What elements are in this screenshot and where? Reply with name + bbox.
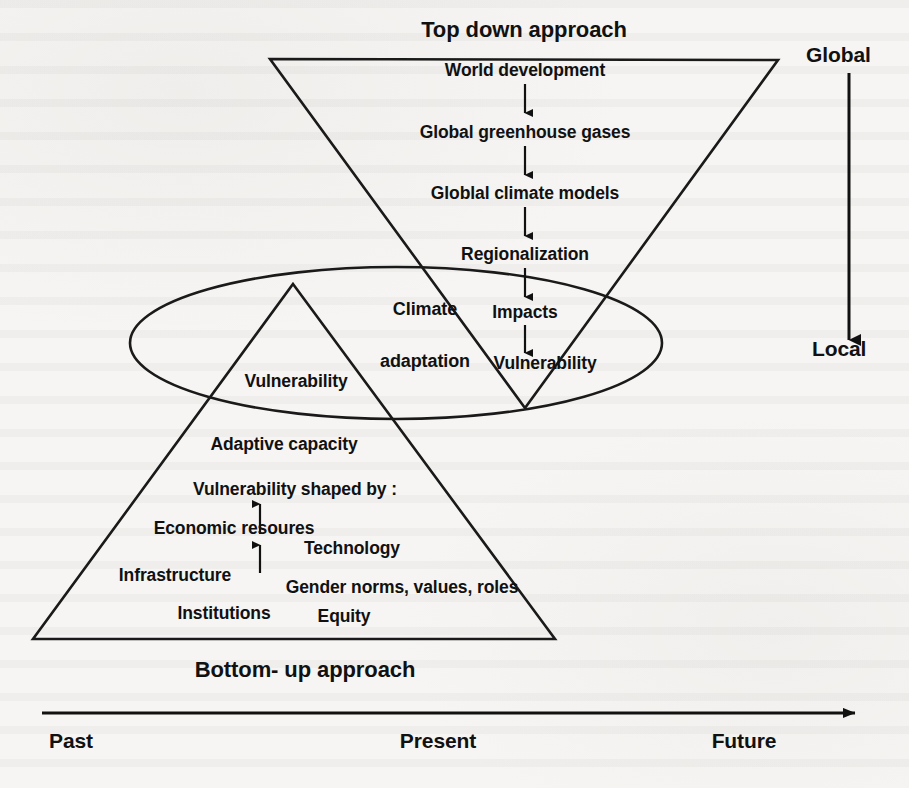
scale-label-global: Global [806, 44, 871, 67]
time-tick-future: Future [712, 730, 777, 753]
bottom-up-step-vulnerability: Vulnerability [244, 372, 347, 391]
bottom-up-approach-title: Bottom- up approach [195, 658, 416, 682]
top-down-step-vulnerability: Vulnerability [493, 354, 596, 373]
diagram-artboard: Top down approach Bottom- up approach Gl… [0, 0, 909, 788]
top-down-step-impacts: Impacts [492, 303, 557, 322]
top-down-approach-title: Top down approach [421, 18, 627, 42]
top-down-step-global-climate-models: Globlal climate models [431, 184, 619, 203]
factor-infrastructure: Infrastructure [119, 566, 231, 585]
factor-equity: Equity [318, 607, 371, 626]
factor-institutions: Institutions [177, 604, 270, 623]
diagram-canvas: Top down approach Bottom- up approach Gl… [0, 0, 909, 788]
climate-adaptation-ellipse [130, 267, 662, 419]
diagram-vector-layer [0, 0, 909, 788]
climate-adaptation-label-line1: Climate [393, 300, 457, 319]
climate-adaptation-label-line2: adaptation [380, 352, 470, 371]
scale-label-local: Local [812, 338, 866, 361]
time-tick-present: Present [400, 730, 476, 753]
top-down-step-global-greenhouse-gases: Global greenhouse gases [420, 123, 631, 142]
factor-economic-resources: Economic resoures [154, 519, 315, 538]
factor-technology: Technology [304, 539, 400, 558]
top-down-step-world-development: World development [445, 61, 605, 80]
bottom-up-step-vulnerability-shaped-by: Vulnerability shaped by : [193, 480, 397, 499]
factor-gender-norms-values-roles: Gender norms, values, roles [286, 578, 519, 597]
top-down-step-regionalization: Regionalization [461, 245, 589, 264]
bottom-up-step-adaptive-capacity: Adaptive capacity [210, 435, 357, 454]
time-tick-past: Past [49, 730, 93, 753]
